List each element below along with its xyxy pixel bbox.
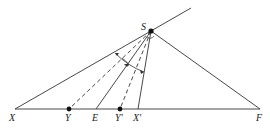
point-S (148, 28, 153, 33)
line-SE (96, 31, 151, 109)
label-X: X (8, 112, 16, 123)
line-SF (151, 31, 260, 109)
label-F: F (255, 112, 263, 123)
label-Yprime: Y′ (115, 112, 124, 123)
label-E: E (91, 112, 98, 123)
point-Y (67, 107, 72, 112)
label-Y: Y (65, 112, 72, 123)
line-XS-extended (15, 8, 191, 109)
point-Yprime (118, 107, 123, 112)
label-Xprime: X′ (132, 112, 142, 123)
line-SYprime-dashed (120, 31, 151, 109)
geometry-diagram: S X Y E Y′ X′ F (0, 0, 270, 137)
label-S: S (141, 21, 146, 32)
arrowhead-icon (140, 70, 144, 74)
arrowhead-icon (115, 53, 119, 56)
angle-arc-outer (115, 53, 144, 72)
